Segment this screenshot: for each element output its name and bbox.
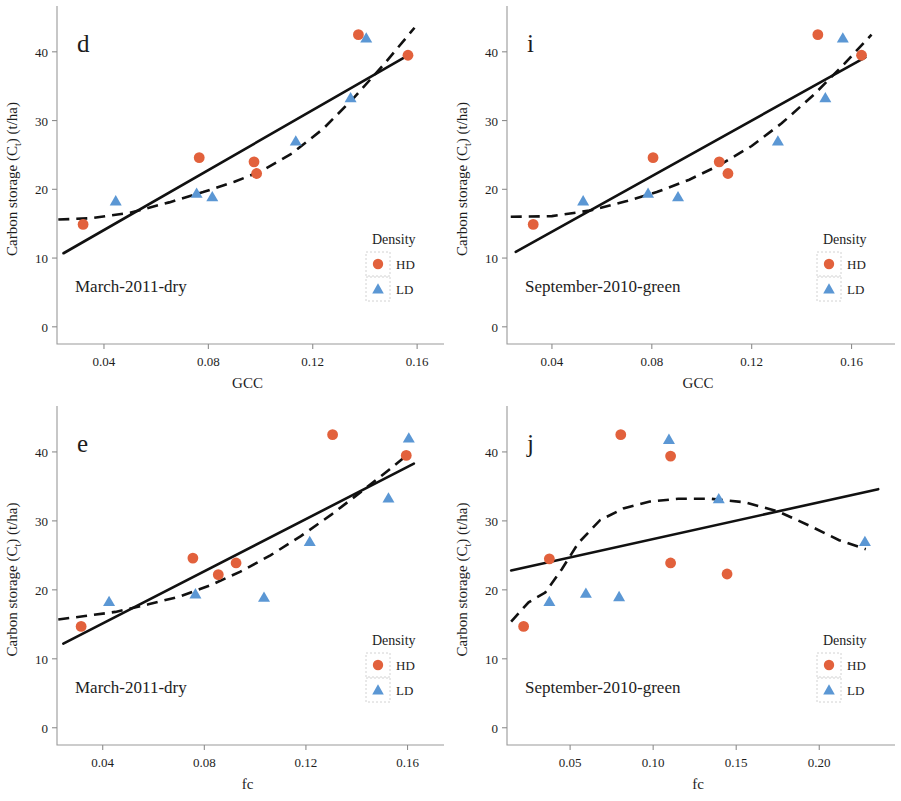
panel-d-letter: d <box>77 30 90 57</box>
data-point-hd <box>544 553 555 564</box>
panel-d-legend-title: Density <box>372 232 416 247</box>
y-tick-label: 0 <box>492 320 499 335</box>
y-tick-label: 30 <box>35 514 48 529</box>
y-tick-label: 40 <box>485 45 498 60</box>
legend-circle-icon <box>373 259 383 269</box>
data-point-hd <box>665 558 676 569</box>
y-tick-label: 10 <box>485 251 498 266</box>
y-axis-title: Carbon storage (Ct) (t/ha) <box>454 503 473 657</box>
y-tick-label: 40 <box>35 445 48 460</box>
legend-circle-icon <box>824 259 834 269</box>
data-point-hd <box>249 156 260 167</box>
data-point-ld <box>580 587 592 597</box>
y-axis-title: Carbon storage (Ct) (t/ha) <box>4 503 23 657</box>
data-point-ld <box>837 32 849 42</box>
panel-d: 0.040.080.120.16010203040GCCCarbon stora… <box>0 0 450 400</box>
panel-i-letter: i <box>527 30 534 57</box>
y-tick-label: 40 <box>485 445 498 460</box>
x-tick-label: 0.20 <box>808 755 831 770</box>
y-tick-label: 20 <box>485 583 498 598</box>
data-point-hd <box>213 569 224 580</box>
data-point-hd <box>723 168 734 179</box>
data-point-hd <box>722 569 733 580</box>
data-point-hd <box>187 553 198 564</box>
legend-triangle-icon <box>823 283 835 293</box>
panel-e-smooth-fit-line <box>58 453 410 620</box>
data-point-hd <box>76 621 87 632</box>
data-point-hd <box>812 29 823 40</box>
x-tick-label: 0.08 <box>197 354 220 369</box>
panel-e-season-label: March-2011-dry <box>75 678 187 697</box>
x-tick-label: 0.16 <box>396 755 419 770</box>
x-axis-title: fc <box>242 776 254 792</box>
y-tick-label: 10 <box>485 652 498 667</box>
legend-entry-label: HD <box>396 658 415 673</box>
legend-entry-label: HD <box>396 257 415 272</box>
data-point-hd <box>665 451 676 462</box>
panel-e-legend-title: Density <box>372 633 416 648</box>
y-axis-title: Carbon storage (Ct) (t/ha) <box>4 102 23 256</box>
y-tick-label: 40 <box>35 45 48 60</box>
x-tick-label: 0.15 <box>725 755 748 770</box>
panel-i-linear-fit-line <box>516 57 866 252</box>
legend-triangle-icon <box>372 684 384 694</box>
data-point-hd <box>648 152 659 163</box>
y-tick-label: 0 <box>492 721 499 736</box>
legend-triangle-icon <box>823 684 835 694</box>
x-tick-label: 0.16 <box>840 354 863 369</box>
panel-d-canvas: 0.040.080.120.16010203040GCCCarbon stora… <box>0 0 450 400</box>
data-point-hd <box>231 558 242 569</box>
data-point-ld <box>672 191 684 201</box>
y-tick-label: 30 <box>35 114 48 129</box>
panel-j: 0.050.100.150.20010203040fcCarbon storag… <box>450 400 901 801</box>
data-point-ld <box>543 596 555 606</box>
data-point-ld <box>859 536 871 546</box>
x-axis-title: GCC <box>232 375 263 391</box>
y-tick-label: 30 <box>485 514 498 529</box>
legend-entry-label: HD <box>847 658 866 673</box>
panel-e-linear-fit-line <box>63 464 414 644</box>
legend-entry-label: LD <box>396 683 413 698</box>
data-point-ld <box>772 135 784 145</box>
data-point-ld <box>304 536 316 546</box>
panel-j-season-label: September-2010-green <box>525 678 681 697</box>
y-tick-label: 20 <box>35 182 48 197</box>
panel-j-canvas: 0.050.100.150.20010203040fcCarbon storag… <box>450 400 901 801</box>
y-tick-label: 10 <box>35 652 48 667</box>
y-tick-label: 30 <box>485 114 498 129</box>
data-point-hd <box>518 621 529 632</box>
data-point-hd <box>714 156 725 167</box>
data-point-hd <box>528 219 539 230</box>
panel-e: 0.040.080.120.16010203040fcCarbon storag… <box>0 400 450 801</box>
y-axis-title: Carbon storage (Ct) (t/ha) <box>454 102 473 256</box>
x-tick-label: 0.08 <box>640 354 663 369</box>
data-point-hd <box>78 219 89 230</box>
panel-j-linear-fit-line <box>511 489 878 570</box>
y-tick-label: 0 <box>42 320 49 335</box>
legend-entry-label: LD <box>396 282 413 297</box>
y-tick-label: 20 <box>35 583 48 598</box>
data-point-hd <box>194 152 205 163</box>
data-point-ld <box>110 195 122 205</box>
y-tick-label: 20 <box>485 182 498 197</box>
data-point-ld <box>819 92 831 102</box>
legend-entry-label: LD <box>847 282 864 297</box>
data-point-ld <box>613 591 625 601</box>
data-point-hd <box>401 450 412 461</box>
panel-d-smooth-fit-line <box>58 28 414 220</box>
panel-e-canvas: 0.040.080.120.16010203040fcCarbon storag… <box>0 400 450 801</box>
x-tick-label: 0.12 <box>295 755 318 770</box>
legend-triangle-icon <box>372 283 384 293</box>
data-point-hd <box>327 429 338 440</box>
x-axis-title: fc <box>692 776 704 792</box>
panel-i-canvas: 0.040.080.120.16010203040GCCCarbon stora… <box>450 0 901 400</box>
data-point-ld <box>290 135 302 145</box>
data-point-ld <box>258 592 270 602</box>
data-point-hd <box>251 168 262 179</box>
data-point-hd <box>353 29 364 40</box>
x-axis-title: GCC <box>683 375 714 391</box>
x-tick-label: 0.12 <box>740 354 763 369</box>
y-tick-label: 0 <box>42 721 49 736</box>
panel-d-linear-fit-line <box>64 54 411 253</box>
panel-j-legend-title: Density <box>823 633 867 648</box>
